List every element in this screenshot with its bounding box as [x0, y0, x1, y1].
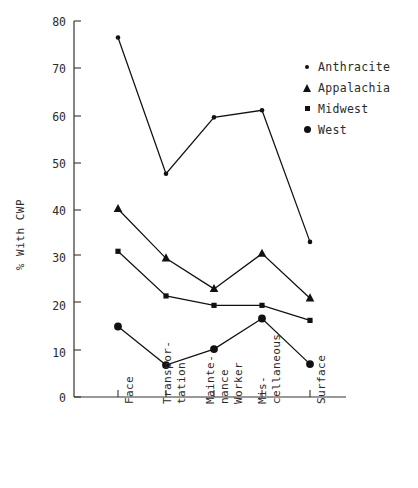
cwp-line-chart: 80 70 60 50 40 30 20 10 0 % With CWP [0, 0, 418, 488]
x-tick-line: Surface [315, 355, 328, 404]
data-point [260, 108, 265, 113]
data-point [116, 35, 121, 40]
data-point [306, 293, 315, 301]
x-tick-line: Worker [232, 362, 245, 404]
legend-item-midwest: Midwest [296, 98, 418, 119]
series-appalachia [114, 204, 315, 301]
data-point [306, 360, 314, 368]
legend-item-label: Anthracite [318, 60, 390, 74]
small-circle-icon [296, 65, 318, 69]
legend-item-label: West [318, 123, 347, 137]
data-point [258, 315, 266, 323]
y-axis-ticks [74, 21, 81, 397]
data-point [210, 345, 218, 353]
series-line [118, 37, 310, 241]
legend-item-label: Appalachia [318, 81, 390, 95]
series-layer [114, 35, 315, 369]
data-point [115, 249, 120, 254]
x-tick-line: cellaneous [270, 334, 283, 404]
triangle-icon [296, 84, 318, 92]
data-point [211, 303, 216, 308]
legend-item-anthracite: Anthracite [296, 56, 418, 77]
data-point [114, 204, 123, 212]
data-point [258, 249, 267, 257]
data-point [163, 293, 168, 298]
square-icon [296, 106, 318, 111]
x-tick-line: Mainte- [204, 355, 217, 404]
series-anthracite [116, 35, 313, 244]
legend: Anthracite Appalachia Midwest West [296, 56, 418, 140]
data-point [164, 171, 169, 176]
legend-item-appalachia: Appalachia [296, 77, 418, 98]
x-tick-line: nance [218, 369, 231, 404]
legend-item-west: West [296, 119, 418, 140]
legend-item-label: Midwest [318, 102, 369, 116]
data-point [210, 284, 219, 292]
data-point [212, 115, 217, 120]
x-tick-line: Face [123, 376, 136, 404]
data-point [259, 303, 264, 308]
data-point [308, 240, 313, 245]
data-point [307, 318, 312, 323]
data-point [114, 323, 122, 331]
x-tick-line: Mis- [256, 376, 269, 404]
large-circle-icon [296, 126, 318, 133]
x-tick-line: tation [175, 362, 188, 404]
x-tick-line: Transpor- [161, 341, 174, 404]
